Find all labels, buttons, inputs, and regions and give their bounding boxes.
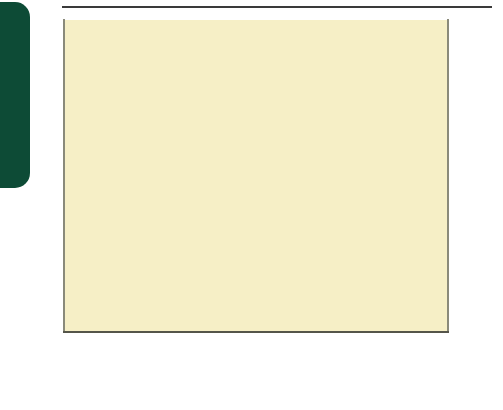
legend-note-line [72,384,452,399]
legend-note-bar [72,368,452,383]
legend-swatch-less-developed [72,354,83,365]
x-axis-tick-labels [63,335,453,351]
chart-canvas [64,20,447,331]
y-axis-left-line [63,19,65,332]
legend-row-series [72,352,452,367]
figure-root [0,0,503,410]
x-axis-line [63,331,449,333]
chart-legend [72,352,452,399]
y-axis-right-line [447,19,449,332]
chart-plot-area [64,20,447,331]
chart-svg [64,20,447,331]
top-divider-rule [62,6,492,8]
legend-swatch-more-developed [112,354,123,365]
figure-number-tab [0,2,30,188]
figure-caption [52,399,497,410]
